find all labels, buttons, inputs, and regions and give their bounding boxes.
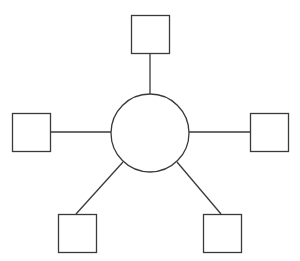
node-square-left [13, 114, 51, 152]
link-bottom-left [76, 162, 123, 214]
node-square-bottom-right [204, 215, 242, 253]
star-diagram [0, 0, 300, 261]
node-square-right [251, 114, 289, 152]
node-square-bottom-left [59, 215, 97, 253]
hub-circle [111, 94, 189, 172]
node-square-top [132, 16, 170, 54]
hub-node [111, 94, 189, 172]
link-bottom-right [177, 162, 221, 214]
